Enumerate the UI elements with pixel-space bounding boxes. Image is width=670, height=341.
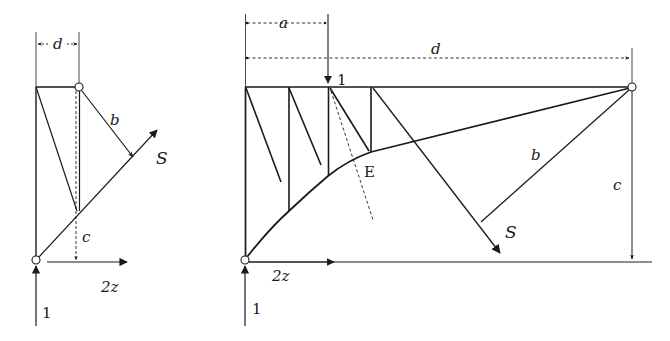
right-label-b: b (531, 146, 541, 164)
left-label-load: 1 (42, 304, 52, 322)
left-label-d: d (53, 35, 63, 53)
left-label-2z: 2z (100, 278, 119, 296)
left-label-c: c (82, 228, 91, 246)
right-label-c: c (613, 176, 622, 194)
right-label-load-bottom: 1 (252, 300, 262, 318)
right-label-load-top: 1 (337, 71, 347, 89)
diagram-canvas: d b S c 2z 1 (0, 0, 670, 341)
right-diagonal-3 (330, 88, 369, 151)
left-node-top (75, 83, 83, 91)
right-labels: a d 1 E b c S 2z 1 (252, 14, 622, 318)
right-node-top-right (628, 83, 636, 91)
left-label-s: S (156, 148, 168, 168)
left-label-b: b (110, 111, 120, 129)
right-label-s: S (505, 222, 517, 242)
right-label-2z: 2z (271, 267, 290, 285)
right-label-a: a (279, 14, 288, 32)
left-line-b (82, 91, 133, 157)
right-label-e: E (364, 163, 375, 181)
left-line-s (38, 130, 157, 258)
left-node-bottom (32, 256, 40, 264)
left-diagram (32, 32, 157, 326)
left-diagonal-member (36, 87, 77, 211)
right-dashed-line-e (331, 91, 373, 220)
left-labels: d b S c 2z 1 (42, 35, 168, 322)
right-node-bottom-left (241, 256, 249, 264)
right-diagonal-2 (289, 88, 321, 165)
right-line-s (373, 88, 500, 253)
right-diagonal-1 (246, 88, 281, 182)
right-label-d: d (431, 40, 441, 58)
right-line-b (481, 90, 629, 222)
right-diagram (241, 14, 652, 326)
